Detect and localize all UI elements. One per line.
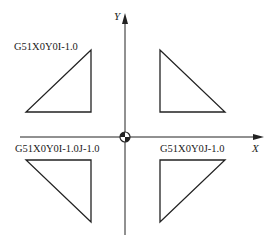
x-axis bbox=[20, 134, 264, 140]
triangle-bottom-left bbox=[26, 160, 91, 222]
label-bottom-left: G51X0Y0I-1.0J-1.0 bbox=[15, 144, 100, 155]
y-axis bbox=[122, 13, 128, 235]
label-bottom-right: G51X0Y0J-1.0 bbox=[160, 144, 224, 155]
y-axis-arrow-icon bbox=[122, 13, 128, 24]
triangle-top-left bbox=[26, 50, 91, 112]
triangle-top-right bbox=[160, 50, 225, 112]
triangle-bottom-right bbox=[160, 160, 225, 222]
x-axis-label: X bbox=[252, 143, 259, 154]
y-axis-label: Y bbox=[114, 11, 120, 22]
mirror-diagram: Y X G51X0Y0I-1.0 G51X0Y0I-1.0J-1.0 G51X0… bbox=[0, 0, 276, 246]
x-axis-arrow-icon bbox=[253, 134, 264, 140]
origin-symbol-icon bbox=[120, 132, 130, 142]
diagram-graphics bbox=[0, 0, 276, 246]
label-top-left: G51X0Y0I-1.0 bbox=[14, 42, 78, 53]
